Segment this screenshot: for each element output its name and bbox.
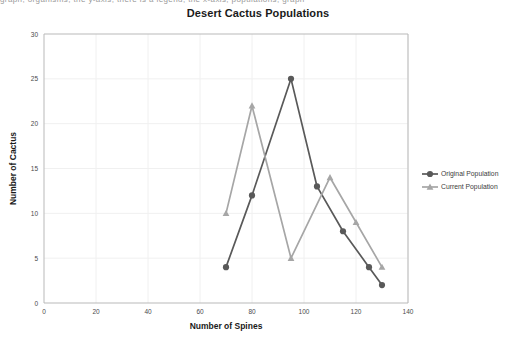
- data-point-marker: [288, 76, 294, 82]
- data-point-marker: [314, 183, 320, 189]
- y-tick-label: 0: [34, 300, 38, 307]
- data-point-marker: [223, 264, 229, 270]
- data-point-marker: [249, 192, 255, 198]
- x-axis-title: Number of Spines: [190, 321, 263, 331]
- y-tick-label: 15: [31, 165, 39, 172]
- y-tick-label: 25: [31, 75, 39, 82]
- legend-marker: [427, 171, 433, 177]
- data-point-marker: [340, 228, 346, 234]
- chart-figure: 020406080100120140051015202530Number of …: [0, 0, 516, 341]
- y-tick-label: 10: [31, 210, 39, 217]
- y-axis-title: Number of Cactus: [8, 132, 18, 205]
- x-tick-label: 80: [248, 308, 256, 315]
- x-tick-label: 0: [42, 308, 46, 315]
- x-tick-label: 100: [299, 308, 310, 315]
- legend-label: Current Population: [441, 183, 498, 191]
- data-point-marker: [327, 174, 334, 180]
- legend-label: Original Population: [441, 170, 499, 178]
- x-tick-label: 60: [196, 308, 204, 315]
- data-point-marker: [249, 102, 256, 108]
- data-point-marker: [366, 264, 372, 270]
- y-tick-label: 20: [31, 120, 39, 127]
- x-tick-label: 20: [92, 308, 100, 315]
- x-tick-label: 140: [403, 308, 414, 315]
- x-tick-label: 40: [144, 308, 152, 315]
- y-tick-label: 5: [34, 255, 38, 262]
- line-chart-canvas: 020406080100120140051015202530Number of …: [0, 0, 516, 341]
- y-tick-label: 30: [31, 31, 39, 38]
- x-tick-label: 120: [351, 308, 362, 315]
- data-point-marker: [379, 282, 385, 288]
